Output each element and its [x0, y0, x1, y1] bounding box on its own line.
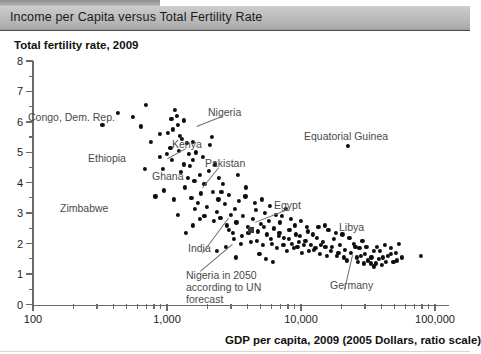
- x-tick-minor: [414, 304, 415, 309]
- y-tick-minor: [29, 258, 34, 259]
- y-tick-label: 0: [2, 299, 23, 311]
- y-tick-minor: [29, 136, 34, 137]
- annotation-label: Germany: [330, 279, 373, 291]
- data-point: [254, 208, 258, 212]
- data-point: [418, 254, 422, 258]
- data-point: [170, 158, 174, 162]
- data-point: [190, 223, 194, 227]
- data-point: [267, 219, 271, 223]
- data-point: [239, 234, 243, 238]
- data-point: [197, 217, 201, 221]
- data-point: [330, 245, 334, 249]
- data-point: [316, 225, 320, 229]
- data-point: [172, 197, 176, 201]
- data-point: [241, 214, 245, 218]
- y-tick-major: [26, 243, 33, 244]
- data-point: [252, 200, 256, 204]
- data-point: [212, 219, 216, 223]
- data-point: [380, 263, 384, 267]
- annotation-label: Nigeria: [208, 106, 241, 118]
- data-point: [239, 242, 243, 246]
- data-point: [262, 225, 266, 229]
- data-point: [225, 223, 229, 227]
- y-tick-label: 8: [2, 55, 23, 67]
- data-point: [272, 226, 276, 230]
- data-point: [234, 220, 238, 224]
- x-tick-minor: [428, 304, 429, 309]
- x-tick-minor: [153, 304, 154, 309]
- y-tick-major: [26, 273, 33, 274]
- y-tick-label: 1: [2, 268, 23, 280]
- data-point: [182, 162, 186, 166]
- x-tick-minor: [137, 304, 138, 309]
- data-point: [383, 243, 387, 247]
- data-point: [223, 202, 227, 206]
- y-axis-line: [32, 61, 34, 306]
- data-point: [219, 190, 223, 194]
- y-tick-label: 4: [2, 177, 23, 189]
- data-point: [304, 225, 308, 229]
- data-point: [284, 249, 288, 253]
- data-point: [192, 179, 196, 183]
- data-point: [244, 185, 248, 189]
- x-tick-minor: [271, 304, 272, 309]
- data-point: [194, 150, 198, 154]
- data-point: [218, 216, 222, 220]
- data-point: [173, 108, 177, 112]
- data-point: [290, 242, 294, 246]
- x-tick-minor: [280, 304, 281, 309]
- data-point: [326, 228, 330, 232]
- data-point: [193, 207, 197, 211]
- data-point: [388, 246, 392, 250]
- data-point: [287, 228, 291, 232]
- data-point: [293, 223, 297, 227]
- data-point: [221, 182, 225, 186]
- data-point: [303, 238, 307, 242]
- data-point: [268, 203, 272, 207]
- x-tick-minor: [126, 304, 127, 309]
- data-point: [381, 255, 385, 259]
- data-point: [183, 185, 187, 189]
- title-bar-background: Income per Capita versus Total Fertility…: [0, 6, 470, 31]
- x-tick-minor: [294, 304, 295, 309]
- data-point: [318, 252, 322, 256]
- page-title: Income per Capita versus Total Fertility…: [10, 10, 262, 24]
- data-point: [400, 255, 404, 259]
- data-point: [232, 237, 236, 241]
- y-tick-major: [26, 152, 33, 153]
- x-tick-major: [300, 304, 301, 311]
- data-point: [202, 214, 206, 218]
- data-point: [394, 251, 398, 255]
- annotation-label: Zimbabwe: [60, 202, 108, 214]
- data-point: [340, 232, 344, 236]
- data-point: [323, 245, 327, 249]
- annotation-label: Nigeria in 2050 according to UN forecast: [186, 269, 261, 305]
- data-point: [324, 254, 328, 258]
- data-point: [276, 234, 280, 238]
- data-point: [209, 135, 213, 139]
- y-tick-label: 7: [2, 85, 23, 97]
- data-point: [298, 234, 302, 238]
- data-point: [176, 123, 180, 127]
- data-point: [243, 194, 247, 198]
- data-point: [307, 249, 311, 253]
- x-tick-label: 10,000: [284, 313, 318, 325]
- data-point: [176, 213, 180, 217]
- data-point: [334, 231, 338, 235]
- data-point: [257, 252, 261, 256]
- data-point: [162, 188, 166, 192]
- scatter-chart: Total fertility rate, 2009 GDP per capit…: [0, 33, 470, 354]
- y-tick-label: 3: [2, 207, 23, 219]
- data-point: [359, 254, 363, 258]
- x-tick-minor: [113, 304, 114, 309]
- data-point: [275, 246, 279, 250]
- y-tick-minor: [29, 228, 34, 229]
- data-point: [175, 114, 179, 118]
- data-point: [188, 164, 192, 168]
- highlighted-data-point: [248, 227, 254, 233]
- data-point: [356, 260, 360, 264]
- x-tick-minor: [73, 304, 74, 309]
- data-point: [270, 242, 274, 246]
- data-point: [297, 240, 301, 244]
- data-point: [208, 143, 212, 147]
